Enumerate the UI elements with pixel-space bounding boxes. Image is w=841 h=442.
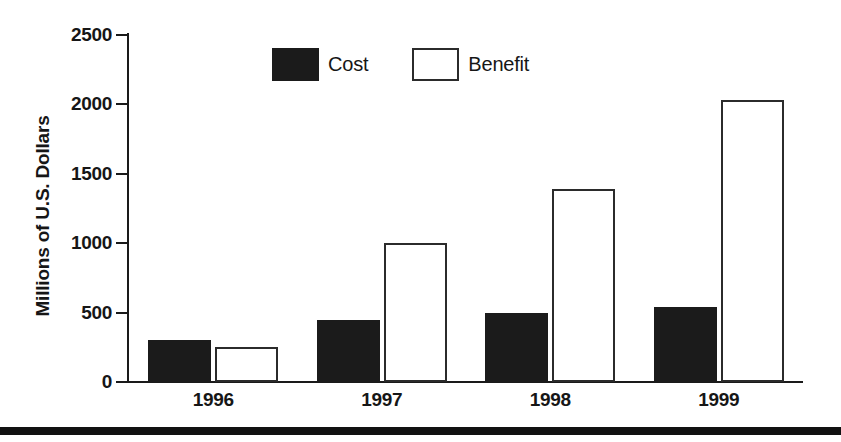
bar-cost-1998 (485, 313, 548, 382)
y-axis-tick-label: 500 (81, 302, 112, 324)
legend-entry-cost: Cost (272, 48, 368, 81)
y-axis-tick (116, 312, 128, 314)
y-axis-tick (116, 34, 128, 36)
legend-swatch-cost-icon (272, 48, 319, 81)
x-axis-label-1999: 1999 (635, 389, 804, 411)
legend-entry-benefit: Benefit (412, 48, 529, 81)
y-axis-tick-label: 0 (102, 371, 112, 393)
bar-chart-figure: Millions of U.S. Dollars 250020001500100… (0, 0, 841, 442)
plot-area: Millions of U.S. Dollars 250020001500100… (0, 0, 841, 442)
bar-cost-1999 (654, 307, 717, 382)
y-axis-tick (116, 242, 128, 244)
y-axis-title: Millions of U.S. Dollars (32, 66, 54, 366)
y-axis-tick-label: 1000 (71, 232, 112, 254)
y-axis-line (127, 33, 129, 383)
y-axis-tick (116, 173, 128, 175)
y-axis-tick (116, 381, 128, 383)
y-axis-tick-label: 2000 (71, 93, 112, 115)
bar-benefit-1999 (721, 100, 784, 382)
y-axis-tick-label: 2500 (71, 24, 112, 46)
legend-swatch-benefit-icon (412, 48, 459, 81)
y-axis-tick (116, 103, 128, 105)
bar-cost-1997 (317, 320, 380, 382)
x-axis-label-1998: 1998 (466, 389, 635, 411)
legend-label-cost: Cost (328, 53, 368, 76)
chart-legend: Cost Benefit (272, 48, 529, 81)
x-axis-label-1996: 1996 (129, 389, 298, 411)
bar-benefit-1996 (215, 347, 278, 382)
page-bottom-rule (0, 427, 841, 435)
bar-benefit-1997 (384, 243, 447, 382)
bar-benefit-1998 (552, 189, 615, 382)
y-axis-tick-label: 1500 (71, 163, 112, 185)
x-axis-label-1997: 1997 (298, 389, 467, 411)
bar-cost-1996 (148, 340, 211, 382)
legend-label-benefit: Benefit (468, 53, 529, 76)
